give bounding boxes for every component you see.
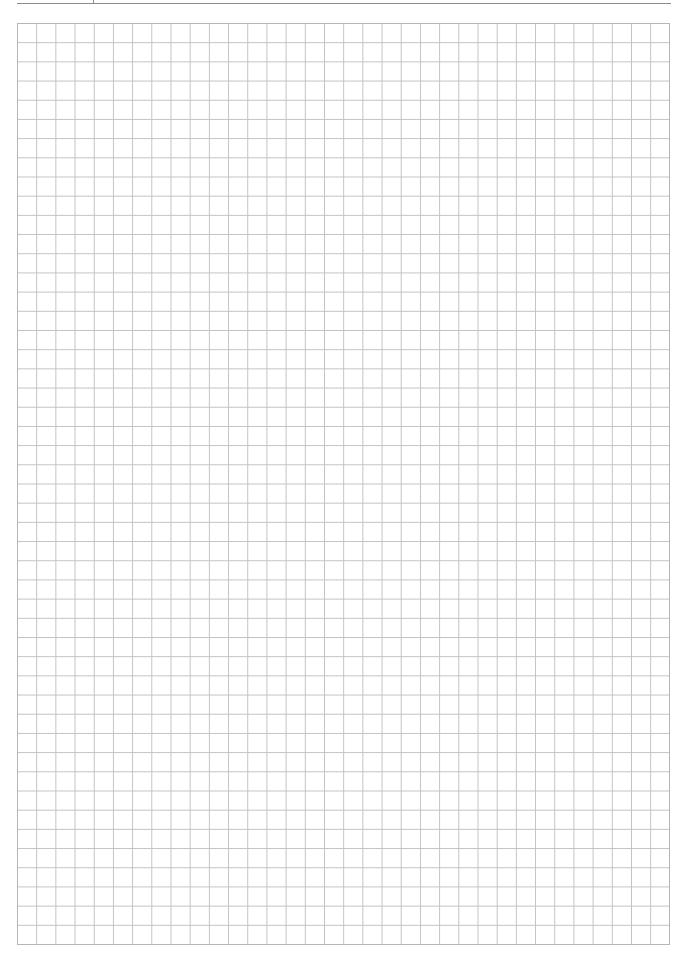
graph-paper-grid [17, 23, 670, 945]
header-rule-line [17, 3, 671, 4]
header-tick-mark [93, 0, 94, 4]
